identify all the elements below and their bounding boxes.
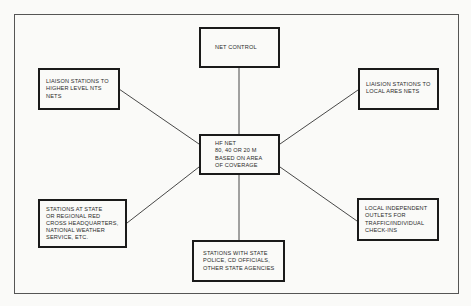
- node-text: CROSS HEADQUARTERS,: [46, 220, 119, 227]
- node-text: OUTLETS FOR: [365, 212, 431, 219]
- node-text: STATIONS WITH STATE: [203, 250, 277, 257]
- node-text: OTHER STATE AGENCIES: [203, 265, 277, 272]
- node-text: LOCAL INDEPENDENT: [365, 205, 431, 212]
- node-text: NET CONTROL: [215, 44, 272, 51]
- edge-red-cross: [127, 167, 199, 223]
- node-hf-net-hub: HF NET 80, 40 OR 20 M BASED ON AREA OF C…: [199, 134, 280, 175]
- node-text: TRAFFIC/INDIVIDUAL: [365, 220, 431, 227]
- node-red-cross-weather: STATIONS AT STATE OR REGIONAL RED CROSS …: [38, 199, 127, 248]
- node-net-control: NET CONTROL: [199, 27, 280, 68]
- node-text: POLICE, CD OFFICIALS,: [203, 257, 277, 264]
- edge-liaison-higher: [119, 89, 199, 144]
- node-text: STATIONS AT STATE: [46, 206, 119, 213]
- node-text: OR REGIONAL RED: [46, 213, 119, 220]
- node-text: BASED ON AREA: [215, 155, 272, 162]
- node-local-outlets: LOCAL INDEPENDENT OUTLETS FOR TRAFFIC/IN…: [357, 198, 439, 241]
- node-text: NETS: [46, 93, 112, 100]
- node-text: LIAISION STATIONS TO: [366, 81, 431, 88]
- node-text: CHECK-INS: [365, 227, 431, 234]
- node-text: LOCAL ARES NETS: [366, 88, 431, 95]
- node-text: HF NET: [215, 140, 272, 147]
- node-text: LIAISON STATIONS TO: [46, 78, 112, 85]
- node-text: SERVICE, ETC.: [46, 234, 119, 241]
- node-text: 80, 40 OR 20 M: [215, 147, 272, 154]
- node-liaison-higher-nts: LIAISON STATIONS TO HIGHER LEVEL NTS NET…: [38, 68, 120, 110]
- node-state-police-agencies: STATIONS WITH STATE POLICE, CD OFFICIALS…: [192, 240, 285, 282]
- node-text: NATIONAL WEATHER: [46, 227, 119, 234]
- edge-local-outlets: [280, 167, 357, 221]
- node-text: OF COVERAGE: [215, 162, 272, 169]
- node-text: HIGHER LEVEL NTS: [46, 85, 112, 92]
- edge-liaison-local: [280, 90, 358, 144]
- node-liaison-local-ares: LIAISION STATIONS TO LOCAL ARES NETS: [358, 68, 439, 110]
